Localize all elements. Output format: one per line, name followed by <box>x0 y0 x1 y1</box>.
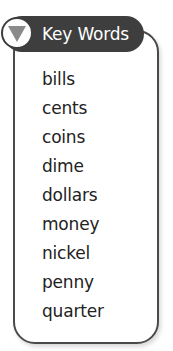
word-list: bills cents coins dime dollars money nic… <box>42 65 104 326</box>
list-item: penny <box>42 268 104 297</box>
list-item: coins <box>42 123 104 152</box>
triangle-down-icon <box>1 17 33 49</box>
list-item: dime <box>42 152 104 181</box>
list-item: bills <box>42 65 104 94</box>
list-item: nickel <box>42 239 104 268</box>
list-item: quarter <box>42 297 104 326</box>
header-title: Key Words <box>42 23 129 45</box>
list-item: dollars <box>42 181 104 210</box>
list-item: cents <box>42 94 104 123</box>
list-item: money <box>42 210 104 239</box>
